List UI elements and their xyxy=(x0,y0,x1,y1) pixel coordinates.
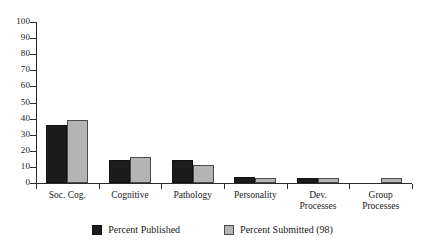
bar xyxy=(46,125,67,183)
y-axis-tick-label-wrap: 70 xyxy=(0,65,30,74)
x-axis-category-label-line: Soc. Cog. xyxy=(36,190,99,201)
bar-group xyxy=(109,22,151,183)
y-axis-tick-label-wrap: 30 xyxy=(0,130,30,139)
bar-group xyxy=(172,22,214,183)
y-axis-tick-label: 40 xyxy=(4,114,30,123)
y-axis-tick-label: 80 xyxy=(4,49,30,58)
bar-chart: 0102030405060708090100 Soc. Cog.Cognitiv… xyxy=(0,0,425,250)
plot-area xyxy=(36,22,412,183)
x-axis-category-label: Dev.Processes xyxy=(287,190,350,212)
bar xyxy=(130,157,151,183)
x-axis-tick xyxy=(36,184,37,189)
x-axis-tick xyxy=(349,184,350,189)
x-axis-category-label: Pathology xyxy=(161,190,224,201)
y-axis-tick-label: 60 xyxy=(4,81,30,90)
x-axis-category-label: Soc. Cog. xyxy=(36,190,99,201)
legend-item: Percent Published xyxy=(92,224,180,235)
x-axis-tick xyxy=(161,184,162,189)
legend-item: Percent Submitted (98) xyxy=(224,224,333,235)
x-axis-category-label-line: Cognitive xyxy=(99,190,162,201)
y-axis-tick-label-wrap: 20 xyxy=(0,146,30,155)
y-axis-tick-label: 90 xyxy=(4,33,30,42)
y-axis-tick-label: 30 xyxy=(4,130,30,139)
bar xyxy=(318,178,339,183)
y-axis-tick-label: 20 xyxy=(4,146,30,155)
y-axis-tick-label-wrap: 50 xyxy=(0,98,30,107)
legend-swatch-icon xyxy=(92,225,102,235)
x-axis-category-label-line: Group xyxy=(349,190,412,201)
legend-label: Percent Submitted (98) xyxy=(240,224,333,235)
legend-swatch-icon xyxy=(224,225,234,235)
x-axis-tick xyxy=(412,184,413,189)
x-axis-tick xyxy=(224,184,225,189)
y-axis-tick-label: 10 xyxy=(4,162,30,171)
x-axis-category-label: Personality xyxy=(224,190,287,201)
legend-label: Percent Published xyxy=(108,224,180,235)
y-axis-tick-label-wrap: 40 xyxy=(0,114,30,123)
bar xyxy=(193,165,214,183)
bar-group xyxy=(46,22,88,183)
y-axis-tick-label-wrap: 80 xyxy=(0,49,30,58)
x-axis-category-label-line: Dev. xyxy=(287,190,350,201)
bar xyxy=(255,178,276,183)
bar-group xyxy=(297,22,339,183)
y-axis-tick-label: 70 xyxy=(4,65,30,74)
x-axis-category-label-line: Processes xyxy=(349,201,412,212)
y-axis-tick-label-wrap: 90 xyxy=(0,33,30,42)
x-axis-category-label: GroupProcesses xyxy=(349,190,412,212)
x-axis-category-label: Cognitive xyxy=(99,190,162,201)
x-axis-tick xyxy=(99,184,100,189)
bar xyxy=(67,120,88,183)
y-axis-tick-label-wrap: 60 xyxy=(0,81,30,90)
x-axis-tick xyxy=(287,184,288,189)
y-axis-tick-label-wrap: 100 xyxy=(0,17,30,26)
bar xyxy=(297,178,318,183)
bar xyxy=(381,178,402,183)
bar-group xyxy=(360,22,402,183)
y-axis-tick-label-wrap: 10 xyxy=(0,162,30,171)
y-axis-tick-label: 100 xyxy=(4,17,30,26)
y-axis-tick-label: 0 xyxy=(4,178,30,187)
x-axis-category-label-line: Personality xyxy=(224,190,287,201)
bar xyxy=(109,160,130,183)
bar xyxy=(172,160,193,183)
x-axis-category-label-line: Pathology xyxy=(161,190,224,201)
chart-legend: Percent PublishedPercent Submitted (98) xyxy=(0,224,425,235)
bar xyxy=(234,177,255,183)
y-axis-tick-label: 50 xyxy=(4,98,30,107)
bar-group xyxy=(234,22,276,183)
y-axis-tick-label-wrap: 0 xyxy=(0,178,30,187)
x-axis-category-label-line: Processes xyxy=(287,201,350,212)
